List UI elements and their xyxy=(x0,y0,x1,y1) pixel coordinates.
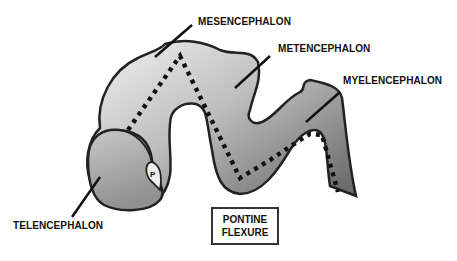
label-mesencephalon: MESENCEPHALON xyxy=(198,16,291,27)
label-metencephalon: METENCEPHALON xyxy=(278,43,370,54)
brain-flexure-diagram: P MESENCEPHALON METENCEPHALON MYELENCEPH… xyxy=(0,0,457,261)
label-myelencephalon: MYELENCEPHALON xyxy=(343,75,442,86)
flexure-label-line1: PONTINE xyxy=(223,213,267,226)
teardrop-letter: P xyxy=(150,170,156,179)
pontine-flexure-box: PONTINE FLEXURE xyxy=(211,207,279,245)
flexure-label-line2: FLEXURE xyxy=(222,226,269,239)
label-telencephalon: TELENCEPHALON xyxy=(13,220,103,231)
